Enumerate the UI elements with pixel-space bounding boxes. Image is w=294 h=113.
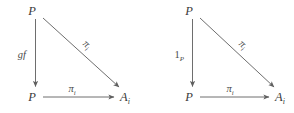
left-edge-label-horizontal: πi (68, 83, 75, 97)
left-vertex-top-left-base: P (27, 4, 36, 18)
left-vertex-bottom-right-sub: i (128, 97, 130, 106)
right-edge-label-horizontal-sub: i (232, 89, 234, 97)
figure-root: P P Ai gf πi πi (0, 0, 294, 113)
left-vertex-bottom-left-base: P (27, 90, 36, 104)
right-edge-label-horizontal: πi (226, 83, 233, 97)
left-diagonal-arrow (43, 18, 119, 87)
left-vertex-bottom-right-base: A (119, 90, 128, 104)
right-vertex-bottom-right: Ai (274, 90, 285, 106)
left-vertex-bottom-left: P (27, 90, 36, 104)
right-edge-label-vertical: 1P (174, 49, 184, 63)
left-edge-label-vertical: gf (18, 49, 28, 60)
right-commutative-triangle: P P Ai 1P πi πi (174, 4, 284, 106)
left-edge-label-diagonal: πi (79, 38, 93, 53)
right-edge-label-diagonal: πi (235, 38, 249, 53)
right-vertex-top-left-base: P (184, 4, 193, 18)
diagram-canvas: P P Ai gf πi πi (0, 0, 294, 113)
right-edge-label-vertical-sub: P (179, 55, 185, 63)
right-vertex-bottom-right-base: A (274, 90, 283, 104)
left-commutative-triangle: P P Ai gf πi πi (18, 4, 130, 106)
left-edge-label-vertical-base: gf (18, 49, 28, 60)
left-vertex-top-left: P (27, 4, 36, 18)
left-vertex-bottom-right: Ai (119, 90, 130, 106)
left-edge-label-horizontal-sub: i (74, 89, 76, 97)
right-vertex-top-left: P (184, 4, 193, 18)
right-diagonal-arrow (200, 18, 274, 87)
right-vertex-bottom-left: P (184, 90, 193, 104)
right-vertex-bottom-right-sub: i (283, 97, 285, 106)
right-vertex-bottom-left-base: P (184, 90, 193, 104)
